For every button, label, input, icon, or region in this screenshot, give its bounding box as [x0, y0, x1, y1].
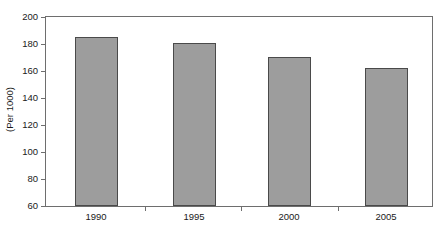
x-axis-label-2005: 2005 [356, 211, 416, 222]
y-axis-tick-label: 60 [12, 201, 38, 211]
y-axis-tick-60: 60 [8, 201, 38, 211]
y-axis-tick-label: 160 [12, 66, 38, 76]
plot-area [45, 16, 433, 207]
y-axis-tick-180: 180 [8, 39, 38, 49]
x-axis-tick-mark [241, 207, 242, 211]
y-axis-tick-label: 120 [12, 120, 38, 130]
bar-1990 [75, 37, 118, 206]
bar-1995 [173, 43, 216, 206]
y-axis-tick-label: 140 [12, 93, 38, 103]
x-axis-tick-mark [145, 207, 146, 211]
y-axis-tick-200: 200 [8, 12, 38, 22]
x-axis-tick-mark [338, 207, 339, 211]
x-axis-label-1990: 1990 [66, 211, 126, 222]
x-axis-label-2000: 2000 [259, 211, 319, 222]
x-axis-label-1995: 1995 [164, 211, 224, 222]
y-axis-tick-100: 100 [8, 147, 38, 157]
y-axis-tick-80: 80 [8, 174, 38, 184]
bar-chart: 200 180 160 140 120 100 80 60 [0, 0, 443, 238]
y-axis-tick-label: 180 [12, 39, 38, 49]
y-axis-tick-label: 200 [12, 12, 38, 22]
y-axis-tick-label: 100 [12, 147, 38, 157]
bar-2005 [365, 68, 408, 206]
bar-2000 [268, 57, 311, 206]
y-axis-tick-label: 80 [12, 174, 38, 184]
y-axis-title: (Per 1000) [4, 74, 15, 146]
